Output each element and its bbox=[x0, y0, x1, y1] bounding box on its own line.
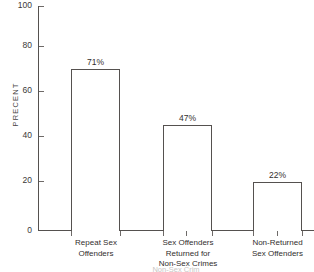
y-tick-label-60: 60 bbox=[10, 86, 32, 95]
x-tick-mark-7 bbox=[277, 231, 278, 236]
x-category-label-2-line-2: Returned for bbox=[143, 249, 233, 260]
y-tick-label-80: 80 bbox=[10, 41, 32, 50]
y-tick-mark-80 bbox=[39, 46, 44, 47]
x-category-label-1: Repeat Sex Offenders bbox=[56, 238, 136, 259]
y-axis-title: PRECENT bbox=[11, 70, 20, 140]
bar-sex-offenders-returned-non-sex-crimes bbox=[163, 125, 212, 231]
x-category-label-2-line-1: Sex Offenders bbox=[143, 238, 233, 249]
x-tick-mark-2 bbox=[120, 231, 121, 236]
x-category-label-3-line-2: Sex Offenders bbox=[235, 249, 314, 260]
y-tick-mark-100 bbox=[39, 6, 44, 7]
bar-value-label-2: 47% bbox=[163, 113, 212, 123]
x-tick-mark-3 bbox=[163, 231, 164, 236]
x-tick-mark-4 bbox=[186, 231, 187, 236]
x-tick-mark-5 bbox=[212, 231, 213, 236]
x-category-label-3: Non-Returned Sex Offenders bbox=[235, 238, 314, 259]
y-tick-label-100: 100 bbox=[10, 1, 32, 10]
y-tick-label-20: 20 bbox=[10, 176, 32, 185]
bar-value-label-3: 22% bbox=[253, 170, 302, 180]
x-category-label-1-line-1: Repeat Sex bbox=[56, 238, 136, 249]
y-tick-label-40: 40 bbox=[10, 131, 32, 140]
y-tick-mark-40 bbox=[39, 136, 44, 137]
bar-non-returned-sex-offenders bbox=[253, 182, 302, 231]
x-tick-mark-8 bbox=[302, 231, 303, 236]
x-category-label-3-line-1: Non-Returned bbox=[235, 238, 314, 249]
bar-value-label-1: 71% bbox=[71, 57, 120, 67]
bar-chart-figure: PRECENT 100 80 60 40 20 0 71% 47% 22% Re… bbox=[0, 0, 314, 272]
x-tick-mark-6 bbox=[253, 231, 254, 236]
y-tick-mark-60 bbox=[39, 91, 44, 92]
x-category-label-1-line-2: Offenders bbox=[56, 249, 136, 260]
figure-caption-partial: Non-Sex Crim bbox=[38, 265, 314, 272]
y-tick-label-0: 0 bbox=[10, 226, 32, 235]
y-axis-line bbox=[38, 6, 39, 231]
x-tick-mark-1 bbox=[71, 231, 72, 236]
bar-repeat-sex-offenders bbox=[71, 69, 120, 231]
y-tick-mark-20 bbox=[39, 181, 44, 182]
